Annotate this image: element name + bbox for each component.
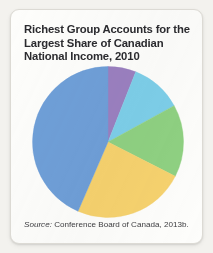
source-note: Source: Conference Board of Canada, 2013…: [24, 220, 198, 230]
pie-slice-group: [33, 67, 184, 218]
pie-chart-container: [32, 66, 184, 218]
figure-card: Richest Group Accounts for the Largest S…: [10, 9, 203, 244]
page-title: Richest Group Accounts for the Largest S…: [24, 23, 196, 64]
source-text: Conference Board of Canada, 2013b.: [52, 220, 189, 229]
source-label: Source:: [24, 220, 52, 229]
pie-chart: [32, 66, 184, 218]
